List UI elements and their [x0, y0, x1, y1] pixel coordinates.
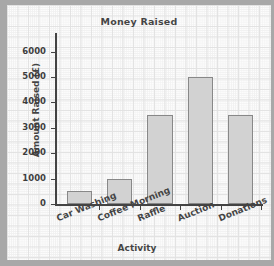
x-tick [180, 206, 181, 210]
bar [188, 77, 213, 204]
y-tick: 4000 [51, 102, 56, 103]
y-tick: 1000 [51, 179, 56, 180]
y-tick-label: 5000 [22, 71, 46, 81]
y-tick: 5000 [51, 77, 56, 78]
graph-paper-background: Money Raised Amount Raised (£) Activity … [7, 5, 271, 260]
y-tick-label: 6000 [22, 46, 46, 56]
y-axis-title: Amount Raised (£) [31, 35, 41, 185]
chart-title: Money Raised [7, 16, 271, 27]
y-tick-label: 2000 [22, 147, 46, 157]
y-axis-line [55, 33, 57, 206]
y-tick-label: 0 [40, 198, 46, 208]
y-tick-label: 1000 [22, 173, 46, 183]
x-axis-title: Activity [47, 243, 227, 253]
y-tick-label: 4000 [22, 96, 46, 106]
plot-area: 0100020003000400050006000 [55, 33, 263, 206]
y-tick-label: 3000 [22, 122, 46, 132]
y-tick: 3000 [51, 128, 56, 129]
chart-screenshot: Money Raised Amount Raised (£) Activity … [0, 0, 274, 266]
y-tick: 2000 [51, 153, 56, 154]
y-tick: 6000 [51, 52, 56, 53]
x-tick [221, 206, 222, 210]
y-tick: 0 [51, 204, 56, 205]
bar [228, 115, 253, 204]
